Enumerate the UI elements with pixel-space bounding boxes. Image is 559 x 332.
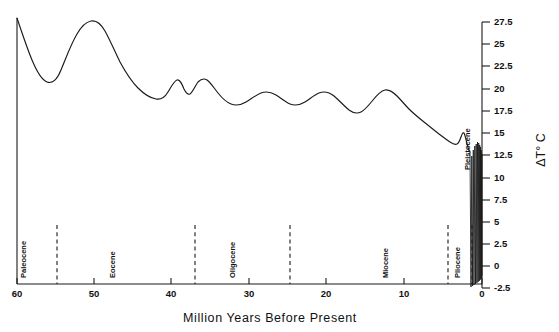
x-tick-label: 20 (321, 288, 332, 299)
y-tick-label: 2.5 (494, 238, 508, 249)
epoch-label-oligocene: Oligocene (228, 242, 237, 278)
epoch-dividers (57, 225, 472, 284)
epoch-label-pliocene: Pliocene (453, 247, 462, 278)
y-tick-label: 10 (494, 172, 505, 183)
x-axis-title: Million Years Before Present (183, 311, 357, 325)
y-tick-label: 12.5 (494, 149, 513, 160)
y-tick-label: 25 (494, 38, 505, 49)
x-tick-label: 0 (479, 288, 484, 299)
y-tick-label: 15 (494, 127, 505, 138)
y-tick-label: 20 (494, 83, 505, 94)
glacial-oscillation-curve (470, 142, 482, 287)
epoch-label-paleocene: Paleocene (19, 241, 28, 278)
y-tick-label: 7.5 (494, 194, 508, 205)
x-tick-label: 30 (244, 288, 255, 299)
paleoclimate-temperature-chart: 60 50 40 30 20 10 0 -2.5 0 (0, 0, 559, 332)
x-tick-label: 40 (166, 288, 177, 299)
x-tick-label: 10 (399, 288, 410, 299)
y-axis-title: ΔT° C (534, 133, 548, 166)
x-tick-label: 60 (12, 288, 23, 299)
x-tick-marks (17, 278, 482, 284)
chart-canvas: 60 50 40 30 20 10 0 -2.5 0 (0, 0, 559, 332)
y-tick-labels: -2.5 0 2.5 5 7.5 10 12.5 15 17.5 20 22.5… (494, 16, 513, 293)
epoch-labels: Paleocene Eocene Oligocene Miocene Plioc… (19, 128, 472, 278)
y-tick-label: -2.5 (494, 282, 511, 293)
y-tick-label: 27.5 (494, 16, 513, 27)
y-tick-label: 22.5 (494, 60, 513, 71)
temperature-curve (17, 18, 470, 152)
y-tick-label: 5 (494, 216, 500, 227)
epoch-label-eocene: Eocene (108, 251, 117, 278)
x-tick-label: 50 (89, 288, 100, 299)
y-tick-marks (482, 22, 490, 288)
epoch-label-miocene: Miocene (381, 248, 390, 278)
axes-group (17, 18, 482, 288)
y-tick-label: 0 (494, 260, 499, 271)
x-tick-labels: 60 50 40 30 20 10 0 (12, 288, 485, 299)
y-tick-label: 17.5 (494, 105, 513, 116)
